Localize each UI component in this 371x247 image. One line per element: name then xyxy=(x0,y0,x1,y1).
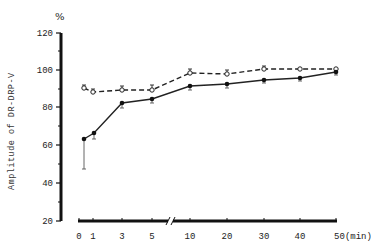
x-tick-labels: 0 1 3 5 10 20 30 40 50(min) xyxy=(76,232,371,242)
svg-text:1: 1 xyxy=(90,232,95,242)
svg-text:30: 30 xyxy=(259,232,270,242)
svg-text:100: 100 xyxy=(37,66,53,76)
svg-text:3: 3 xyxy=(119,232,124,242)
svg-text:20: 20 xyxy=(222,232,233,242)
svg-text:20: 20 xyxy=(42,217,53,227)
svg-text:5: 5 xyxy=(149,232,154,242)
svg-text:80: 80 xyxy=(42,103,53,113)
svg-text:0: 0 xyxy=(76,232,81,242)
y-unit-label: % xyxy=(55,11,65,22)
series-filled-circles xyxy=(82,70,339,169)
y-axis-label: Amplitude of DR-DRP-V xyxy=(7,72,17,190)
svg-text:10: 10 xyxy=(185,232,196,242)
svg-text:40: 40 xyxy=(42,179,53,189)
svg-text:50(min): 50(min) xyxy=(334,232,371,242)
chart: % Amplitude of DR-DRP-V 120 100 80 60 40… xyxy=(0,0,371,247)
x-axis xyxy=(78,217,337,225)
svg-text:120: 120 xyxy=(37,29,53,39)
svg-text:60: 60 xyxy=(42,141,53,151)
y-tick-labels: 120 100 80 60 40 20 xyxy=(37,29,53,227)
svg-text:40: 40 xyxy=(295,232,306,242)
